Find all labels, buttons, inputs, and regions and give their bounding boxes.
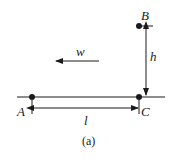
- label-l: l: [84, 113, 88, 128]
- label-h: h: [150, 49, 157, 64]
- point-a-dot: [29, 94, 35, 100]
- point-c-dot: [136, 94, 142, 100]
- figure-caption: (a): [82, 134, 95, 148]
- label-a: A: [16, 104, 25, 119]
- label-b: B: [141, 8, 149, 23]
- label-c: C: [141, 104, 150, 119]
- diagram-canvas: A C B h l w (a): [0, 0, 180, 162]
- label-w: w: [76, 44, 85, 59]
